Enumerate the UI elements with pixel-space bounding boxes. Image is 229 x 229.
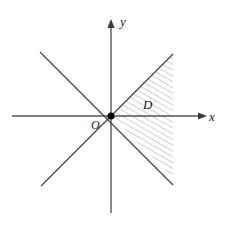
y-axis-label: y bbox=[120, 15, 126, 28]
origin-point-marker bbox=[107, 112, 114, 119]
x-axis-arrowhead-icon bbox=[198, 112, 207, 119]
figure-canvas: y x D O bbox=[0, 0, 229, 229]
region-label-D: D bbox=[143, 98, 152, 111]
y-axis-arrowhead-icon bbox=[107, 19, 114, 28]
x-axis-label: x bbox=[209, 110, 215, 123]
origin-label: O bbox=[91, 119, 100, 131]
coordinate-plane-svg bbox=[0, 0, 229, 229]
